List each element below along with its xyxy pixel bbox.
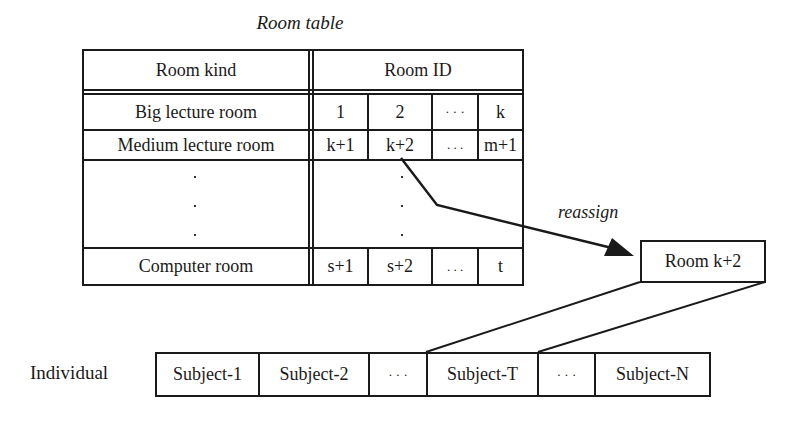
arrowhead-icon	[604, 238, 634, 256]
reassign-label: reassign	[558, 202, 618, 223]
individual-row: Subject-1 Subject-2 · · · Subject-T · · …	[155, 352, 711, 397]
expand-line-left	[426, 282, 640, 352]
individual-label: Individual	[30, 362, 108, 384]
subject-ellipsis: · · ·	[368, 352, 428, 397]
selected-room-box: Room k+2	[640, 240, 766, 283]
subject-cell: Subject-N	[594, 352, 711, 397]
subject-ellipsis: · · ·	[537, 352, 596, 397]
subject-cell: Subject-2	[258, 352, 370, 397]
subject-cell-target: Subject-T	[426, 352, 539, 397]
subject-cell: Subject-1	[155, 352, 260, 397]
expand-line-right	[538, 282, 765, 352]
